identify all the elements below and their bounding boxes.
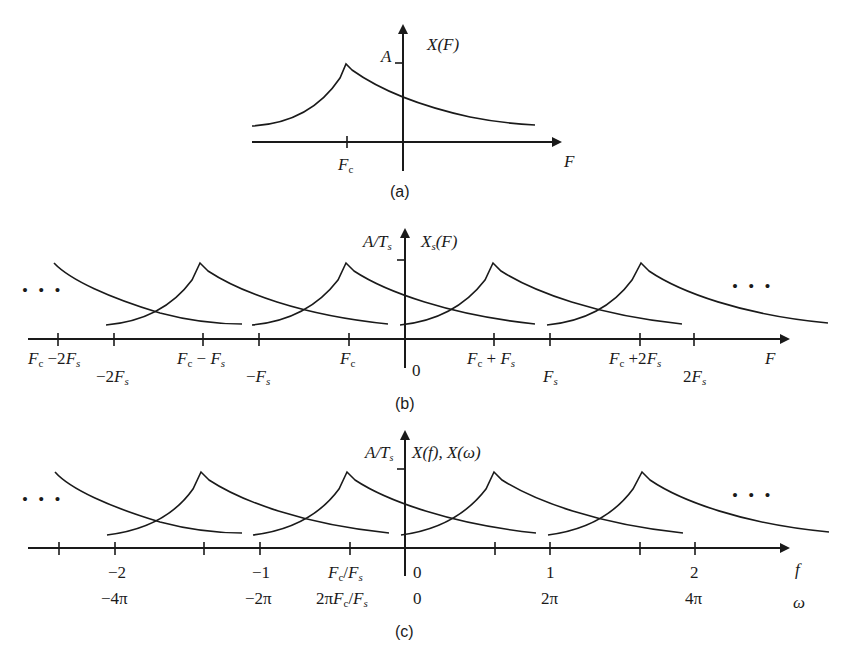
f-tick-minus-1: −1 xyxy=(252,563,270,582)
tick-label-fc-plus-2fs: Fc +2Fs xyxy=(608,349,661,369)
x-label-b: F xyxy=(764,349,776,368)
tick-label-fc-minus-2fs: Fc −2Fs xyxy=(27,349,80,369)
f-tick-2: 2 xyxy=(690,563,699,582)
fc-label-a: Fc xyxy=(337,155,353,175)
tick-label-fs: Fs xyxy=(542,367,558,387)
x-label-f: f xyxy=(795,560,802,579)
amplitude-label-b: A/Ts xyxy=(362,232,392,252)
omega-tick-minus-2pi: −2π xyxy=(245,589,272,608)
sampling-spectrum-diagram: X(F) A Fc F (a) xyxy=(0,0,850,663)
panel-a: X(F) A Fc F (a) xyxy=(252,26,575,200)
tick-label-fc-minus-fs: Fc − Fs xyxy=(176,349,225,369)
tick-label-zero-b: 0 xyxy=(412,361,421,380)
tick-label-fc: Fc xyxy=(339,349,355,369)
omega-tick-4pi: 4π xyxy=(685,589,703,608)
caption-a: (a) xyxy=(390,183,410,200)
omega-tick-2pi-fc-over-fs: 2πFc/Fs xyxy=(316,589,368,609)
y-label-b: Xs(F) xyxy=(420,232,458,252)
omega-tick-2pi: 2π xyxy=(541,589,559,608)
f-tick-zero: 0 xyxy=(413,563,422,582)
amplitude-label-c: A/Ts xyxy=(364,443,394,463)
ellipsis-left-b: • • • xyxy=(22,281,63,300)
tick-label-2fs: 2Fs xyxy=(683,367,706,387)
ellipsis-right-b: • • • xyxy=(732,277,773,296)
caption-c: (c) xyxy=(395,623,414,640)
caption-b: (b) xyxy=(395,395,415,412)
tick-label-minus-2fs: −2Fs xyxy=(96,367,129,387)
panel-c: • • • • • • A/Ts X(f), X(ω) −2 −1 Fc/Fs … xyxy=(22,432,829,640)
omega-tick-zero: 0 xyxy=(413,589,422,608)
y-label-a: X(F) xyxy=(426,35,459,54)
spectrum-curve-a xyxy=(252,64,535,126)
x-label-omega: ω xyxy=(793,593,805,612)
f-tick-fc-over-fs: Fc/Fs xyxy=(327,563,363,583)
tick-label-fc-plus-fs: Fc + Fs xyxy=(466,349,515,369)
tick-label-minus-fs: −Fs xyxy=(246,367,270,387)
omega-tick-minus-4pi: −4π xyxy=(101,589,128,608)
f-tick-1: 1 xyxy=(546,563,555,582)
amplitude-label-a: A xyxy=(380,47,392,66)
y-label-c: X(f), X(ω) xyxy=(411,443,481,462)
f-tick-minus-2: −2 xyxy=(108,563,126,582)
ellipsis-left-c: • • • xyxy=(22,490,63,509)
ellipsis-right-c: • • • xyxy=(732,486,773,505)
spectrum-replicas-b xyxy=(54,263,828,325)
panel-b: • • • • • • A/Ts Xs(F) Fc −2Fs Fc − Fs F… xyxy=(22,230,828,412)
x-label-a: F xyxy=(563,152,575,171)
spectrum-replicas-c xyxy=(55,472,829,535)
